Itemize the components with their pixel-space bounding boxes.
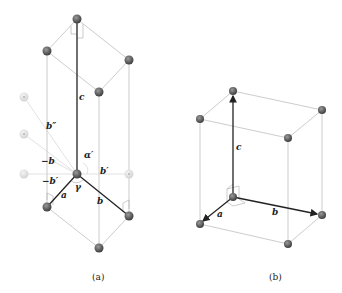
bottom-face-edges-b bbox=[200, 215, 322, 244]
panel-b: c a b (b) bbox=[196, 87, 326, 282]
vertical-edges-b bbox=[200, 110, 322, 244]
label-b: b bbox=[97, 196, 103, 206]
caption-b: (b) bbox=[269, 272, 282, 282]
lattice-figure: c b″ −b α′ b′ −b′ γ a b (a) bbox=[0, 0, 342, 293]
label-b-double-prime: b″ bbox=[46, 121, 56, 131]
label-c-b: c bbox=[236, 142, 242, 152]
label-gamma: γ bbox=[75, 182, 82, 192]
lattice-atoms-b bbox=[196, 87, 326, 248]
label-c: c bbox=[79, 92, 85, 102]
label-b-b: b bbox=[272, 207, 278, 217]
top-face-edges-b bbox=[200, 91, 322, 138]
b-axis bbox=[77, 174, 129, 216]
label-b-prime: b′ bbox=[100, 166, 109, 176]
top-face-edges bbox=[47, 19, 129, 92]
right-angle-mark bbox=[77, 24, 83, 38]
label-alpha-prime: α′ bbox=[84, 150, 94, 160]
panel-a: c b″ −b α′ b′ −b′ γ a b (a) bbox=[20, 15, 134, 283]
right-angle-mark bbox=[71, 26, 77, 34]
ghost-atom bbox=[20, 170, 29, 179]
label-neg-b: −b bbox=[41, 156, 55, 166]
lattice-atoms-a bbox=[43, 15, 134, 253]
bottom-face-edges bbox=[47, 207, 129, 248]
caption-a: (a) bbox=[92, 272, 104, 282]
right-angle-mark bbox=[123, 200, 129, 212]
label-neg-b-prime: −b′ bbox=[42, 176, 59, 186]
label-a-b: a bbox=[217, 209, 223, 219]
label-a: a bbox=[61, 190, 67, 200]
